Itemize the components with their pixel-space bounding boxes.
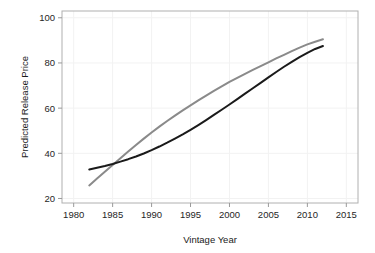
x-axis-tick-label: 2010 [297, 209, 318, 220]
x-axis-title: Vintage Year [183, 234, 237, 245]
x-axis-tick-label: 2015 [336, 209, 357, 220]
y-axis-title: Predicted Release Price [19, 56, 30, 158]
x-axis-tick-label: 1985 [102, 209, 123, 220]
x-axis-tick-label: 1980 [63, 209, 84, 220]
x-axis-tick-label: 2005 [258, 209, 279, 220]
y-axis-tick-label: 20 [44, 193, 55, 204]
chart-screenshot: 20406080100 1980198519901995200020052010… [0, 0, 375, 253]
predicted-release-price-line-chart: 20406080100 1980198519901995200020052010… [0, 0, 375, 253]
y-axis-tick-label: 80 [44, 57, 55, 68]
x-axis-tick-label: 1995 [180, 209, 201, 220]
plot-area-background [62, 11, 358, 203]
y-axis-tick-label: 40 [44, 148, 55, 159]
x-axis-tick-label: 2000 [219, 209, 240, 220]
y-axis-tick-label: 60 [44, 103, 55, 114]
y-axis-tick-label: 100 [39, 12, 55, 23]
x-axis-tick-label: 1990 [141, 209, 162, 220]
